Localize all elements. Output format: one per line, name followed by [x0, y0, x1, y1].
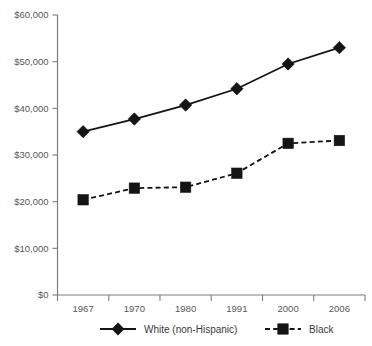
y-axis-tick-label: $20,000: [14, 196, 48, 207]
data-point-marker: [232, 168, 242, 178]
y-axis-tick-label: $50,000: [14, 56, 48, 67]
x-axis-tick-label: 1970: [124, 303, 145, 314]
plot-series-area: [77, 41, 346, 205]
x-axis-tick-label: 1980: [175, 303, 196, 314]
y-axis-tick-label: $60,000: [14, 9, 48, 20]
x-axis-tick-label: 2006: [329, 303, 350, 314]
series-line: [83, 48, 339, 132]
data-point-marker: [78, 195, 88, 205]
y-axis-tick-label: $40,000: [14, 103, 48, 114]
x-axis-tick-label: 1967: [73, 303, 94, 314]
x-axis-tick-label: 1991: [226, 303, 247, 314]
series-white-non-hispanic: [77, 41, 346, 137]
data-point-marker: [179, 99, 191, 111]
legend-marker-icon: [112, 323, 124, 335]
data-point-marker: [128, 113, 140, 125]
data-point-marker: [231, 83, 243, 95]
data-point-marker: [180, 182, 190, 192]
x-axis: 196719701980199120002006: [58, 295, 366, 314]
data-point-marker: [334, 135, 344, 145]
y-axis-tick-label: $0: [38, 289, 49, 300]
y-axis-tick-label: $10,000: [14, 243, 48, 254]
x-axis-tick-label: 2000: [278, 303, 299, 314]
legend-item-black[interactable]: Black: [265, 324, 334, 335]
data-point-marker: [282, 58, 294, 70]
data-point-marker: [77, 125, 89, 137]
legend-label: White (non-Hispanic): [144, 324, 237, 335]
chart-legend: White (non-Hispanic)Black: [100, 323, 334, 335]
chart-container: $0$10,000$20,000$30,000$40,000$50,000$60…: [0, 0, 372, 346]
data-point-marker: [283, 138, 293, 148]
data-point-marker: [333, 41, 345, 53]
legend-marker-icon: [278, 324, 288, 334]
data-point-marker: [129, 183, 139, 193]
series-line: [83, 141, 339, 200]
legend-label: Black: [309, 324, 334, 335]
legend-item-white-non-hispanic[interactable]: White (non-Hispanic): [100, 323, 237, 335]
series-black: [78, 135, 345, 205]
y-axis-tick-label: $30,000: [14, 149, 48, 160]
y-axis: $0$10,000$20,000$30,000$40,000$50,000$60…: [14, 9, 57, 300]
income-by-race-line-chart: $0$10,000$20,000$30,000$40,000$50,000$60…: [0, 0, 372, 346]
